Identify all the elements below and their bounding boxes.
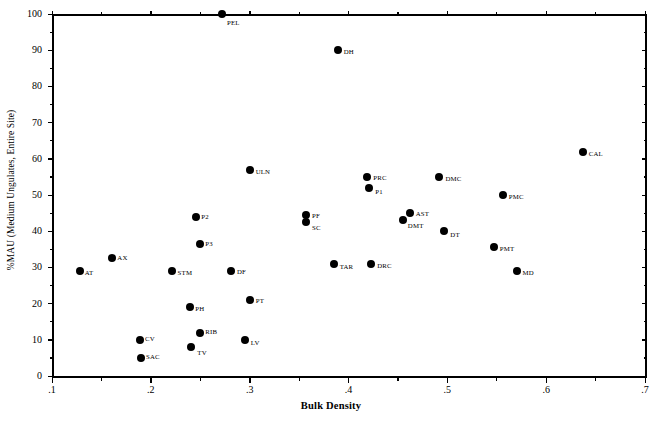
data-point bbox=[330, 260, 338, 268]
axis-tick bbox=[546, 378, 547, 383]
data-point-label: AX bbox=[117, 254, 127, 261]
data-point bbox=[406, 209, 414, 217]
axis-tick bbox=[101, 12, 102, 16]
axis-tick bbox=[48, 86, 53, 87]
x-tick-label: .4 bbox=[337, 385, 361, 395]
data-point bbox=[192, 213, 200, 221]
axis-tick bbox=[644, 32, 648, 33]
data-point bbox=[187, 343, 195, 351]
axis-tick bbox=[644, 285, 648, 286]
axis-tick bbox=[595, 12, 596, 16]
data-point-label: PMC bbox=[509, 193, 524, 200]
axis-tick bbox=[52, 378, 53, 383]
axis-tick bbox=[50, 32, 54, 33]
axis-tick bbox=[200, 378, 201, 382]
axis-tick bbox=[50, 104, 54, 105]
axis-tick bbox=[48, 339, 53, 340]
data-point-label: AST bbox=[416, 210, 429, 217]
axis-tick bbox=[48, 303, 53, 304]
y-axis-label-text: %MAU (Medium Ungulates, Entire Site) bbox=[6, 110, 16, 271]
data-point bbox=[76, 267, 84, 275]
x-tick-label: .2 bbox=[139, 385, 163, 395]
x-tick-label: .3 bbox=[238, 385, 262, 395]
axis-tick bbox=[48, 50, 53, 51]
axis-tick bbox=[642, 267, 647, 268]
axis-tick bbox=[644, 249, 648, 250]
data-point-label: TV bbox=[197, 349, 206, 356]
data-point-label: PH bbox=[195, 305, 204, 312]
y-tick-label: 10 bbox=[16, 335, 42, 345]
axis-tick bbox=[48, 267, 53, 268]
axis-tick bbox=[642, 50, 647, 51]
data-point-label: DF bbox=[237, 268, 246, 275]
data-point bbox=[363, 173, 371, 181]
axis-tick bbox=[48, 231, 53, 232]
axis-tick bbox=[642, 158, 647, 159]
data-point bbox=[137, 354, 145, 362]
axis-tick bbox=[496, 378, 497, 382]
axis-tick bbox=[642, 86, 647, 87]
data-point-label: MD bbox=[523, 269, 534, 276]
data-point-label: DRC bbox=[377, 262, 392, 269]
data-point-label: CAL bbox=[589, 150, 603, 157]
axis-tick bbox=[48, 195, 53, 196]
axis-tick bbox=[299, 12, 300, 16]
y-tick-label: 70 bbox=[16, 118, 42, 128]
data-point-label: CV bbox=[145, 335, 155, 342]
data-point bbox=[334, 46, 342, 54]
data-point bbox=[513, 267, 521, 275]
scatter-plot-figure: %MAU (Medium Ungulates, Entire Site) Bul… bbox=[0, 0, 662, 422]
data-point-label: PEL bbox=[227, 19, 240, 26]
data-point-label: SC bbox=[312, 224, 321, 231]
data-point bbox=[579, 148, 587, 156]
data-point bbox=[246, 296, 254, 304]
data-point-label: STM bbox=[178, 269, 193, 276]
axis-tick bbox=[644, 321, 648, 322]
data-point-label: DT bbox=[450, 231, 459, 238]
data-point bbox=[218, 10, 226, 18]
axis-tick bbox=[642, 231, 647, 232]
axis-tick bbox=[496, 12, 497, 16]
data-point-label: TAR bbox=[340, 263, 354, 270]
axis-tick bbox=[645, 378, 646, 383]
data-point bbox=[365, 184, 373, 192]
axis-tick bbox=[644, 140, 648, 141]
data-point-label: DMT bbox=[408, 222, 424, 229]
data-point-label: P2 bbox=[201, 213, 209, 220]
axis-tick bbox=[348, 11, 349, 16]
data-point-label: PT bbox=[256, 297, 264, 304]
axis-tick bbox=[50, 68, 54, 69]
axis-tick bbox=[50, 357, 54, 358]
data-point-label: LV bbox=[251, 339, 260, 346]
data-point-label: RIB bbox=[205, 328, 217, 335]
x-tick-label: .1 bbox=[40, 385, 64, 395]
axis-tick bbox=[644, 357, 648, 358]
data-point bbox=[440, 227, 448, 235]
axis-tick bbox=[48, 158, 53, 159]
data-point bbox=[246, 166, 254, 174]
y-tick-label: 20 bbox=[16, 299, 42, 309]
data-point bbox=[136, 336, 144, 344]
data-point-label: ULN bbox=[256, 168, 271, 175]
axis-tick bbox=[200, 12, 201, 16]
axis-tick bbox=[50, 176, 54, 177]
axis-tick bbox=[249, 378, 250, 383]
axis-tick bbox=[644, 104, 648, 105]
axis-tick bbox=[348, 378, 349, 383]
data-point-label: P3 bbox=[205, 240, 213, 247]
data-point bbox=[186, 303, 194, 311]
axis-tick bbox=[50, 321, 54, 322]
y-tick-label: 0 bbox=[16, 371, 42, 381]
axis-tick bbox=[249, 11, 250, 16]
data-point bbox=[241, 336, 249, 344]
axis-tick bbox=[299, 378, 300, 382]
axis-tick bbox=[644, 68, 648, 69]
axis-tick bbox=[150, 11, 151, 16]
axis-tick bbox=[101, 378, 102, 382]
x-tick-label: .6 bbox=[534, 385, 558, 395]
y-tick-label: 30 bbox=[16, 262, 42, 272]
y-tick-label: 60 bbox=[16, 154, 42, 164]
axis-tick bbox=[642, 339, 647, 340]
axis-tick bbox=[642, 303, 647, 304]
data-point bbox=[168, 267, 176, 275]
